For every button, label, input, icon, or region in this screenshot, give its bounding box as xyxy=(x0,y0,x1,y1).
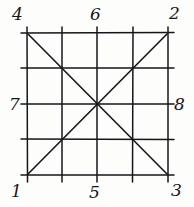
node-label-bottom-middle: 5 xyxy=(89,184,100,201)
node-label-top-right: 2 xyxy=(169,5,180,22)
vertical-line-right-inner xyxy=(133,27,134,182)
node-label-bottom-right: 3 xyxy=(171,182,182,199)
node-label-top-left: 4 xyxy=(12,6,23,23)
node-label-top-middle: 6 xyxy=(90,6,101,23)
node-label-left-middle: 7 xyxy=(9,96,20,113)
vertical-line-left xyxy=(27,27,28,182)
node-label-bottom-left: 1 xyxy=(11,183,22,200)
figure-root: 4 6 2 7 8 1 5 3 xyxy=(0,0,194,207)
node-label-right-middle: 8 xyxy=(174,96,185,113)
grid-diagram xyxy=(0,0,194,207)
